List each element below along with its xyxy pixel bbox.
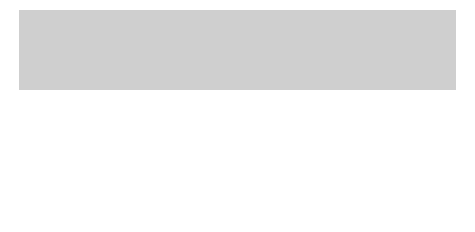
wdm-diagram bbox=[0, 0, 475, 232]
